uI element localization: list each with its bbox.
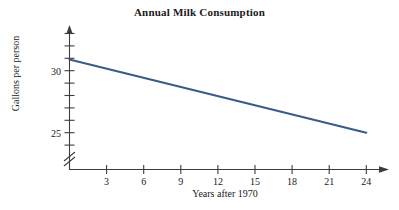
data-series-line [70, 60, 367, 133]
x-tick-label-9: 9 [178, 176, 183, 187]
x-tick-label-6: 6 [141, 176, 146, 187]
chart-plot-area: 30 25 3 6 9 12 15 18 21 24 [0, 0, 399, 210]
x-tick-label-3: 3 [104, 176, 109, 187]
x-tick-label-12: 12 [213, 176, 223, 187]
x-axis-arrow-icon [379, 166, 389, 173]
x-tick-label-15: 15 [250, 176, 260, 187]
y-tick-label-30: 30 [51, 66, 61, 77]
chart-container: Annual Milk Consumption 30 25 [0, 0, 399, 210]
x-axis-title: Years after 1970 [60, 188, 390, 199]
x-tick-label-24: 24 [361, 176, 371, 187]
y-tick-label-25: 25 [51, 128, 61, 139]
y-axis [66, 25, 73, 170]
y-axis-title: Gallons per person [10, 26, 21, 122]
x-tick-label-18: 18 [287, 176, 297, 187]
x-tick-label-21: 21 [324, 176, 334, 187]
x-axis [70, 166, 390, 173]
y-axis-arrow-icon [66, 25, 73, 34]
